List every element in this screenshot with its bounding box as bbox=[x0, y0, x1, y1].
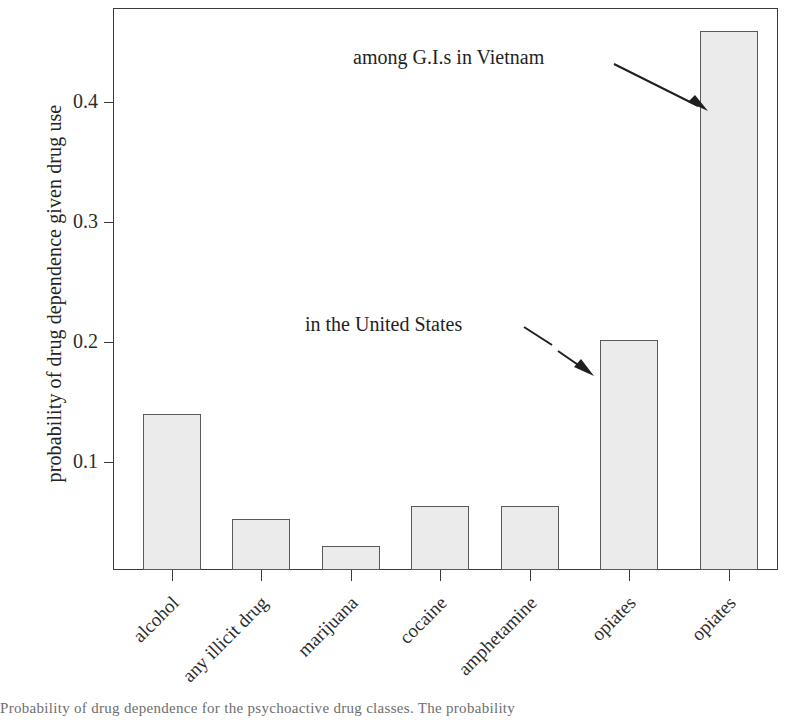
x-tick-label-opiates-us: opiates bbox=[587, 592, 641, 646]
bar-alcohol bbox=[143, 414, 201, 570]
annotation-united-states-arrow-icon bbox=[522, 325, 622, 385]
y-tick-mark-0.3 bbox=[104, 222, 114, 223]
y-tick-label-0.1: 0.1 bbox=[38, 450, 98, 473]
x-tick-label-cocaine: cocaine bbox=[395, 592, 452, 649]
x-tick-mark-opiates-us bbox=[629, 570, 630, 581]
bar-amphetamine bbox=[501, 506, 559, 570]
x-tick-label-alcohol: alcohol bbox=[128, 592, 183, 647]
bar-cocaine bbox=[411, 506, 469, 570]
y-tick-label-0.4: 0.4 bbox=[38, 90, 98, 113]
annotation-vietnam-label: among G.I.s in Vietnam bbox=[353, 46, 544, 69]
x-tick-label-marijuana: marijuana bbox=[293, 592, 362, 661]
x-tick-mark-amphetamine bbox=[530, 570, 531, 581]
y-tick-label-0.2: 0.2 bbox=[38, 330, 98, 353]
x-tick-label-opiates-vietnam: opiates bbox=[687, 592, 741, 646]
x-tick-mark-any-illicit-drug bbox=[261, 570, 262, 581]
chart-figure: probability of drug dependence given dru… bbox=[0, 0, 793, 720]
x-tick-mark-opiates-vietnam bbox=[729, 570, 730, 581]
y-tick-mark-0.2 bbox=[104, 342, 114, 343]
y-tick-mark-0.1 bbox=[104, 462, 114, 463]
x-tick-mark-alcohol bbox=[172, 570, 173, 581]
y-tick-mark-0.4 bbox=[104, 102, 114, 103]
x-tick-label-amphetamine: amphetamine bbox=[454, 592, 542, 680]
annotation-vietnam-arrow-icon bbox=[612, 62, 722, 117]
y-tick-label-0.3: 0.3 bbox=[38, 210, 98, 233]
figure-caption: Probability of drug dependence for the p… bbox=[0, 700, 793, 720]
x-tick-mark-marijuana bbox=[351, 570, 352, 581]
bar-marijuana bbox=[322, 546, 380, 570]
x-tick-label-any-illicit-drug: any illicit drug bbox=[178, 592, 273, 687]
bar-any-illicit-drug bbox=[232, 519, 290, 570]
annotation-united-states-label: in the United States bbox=[305, 313, 462, 336]
x-tick-mark-cocaine bbox=[440, 570, 441, 581]
